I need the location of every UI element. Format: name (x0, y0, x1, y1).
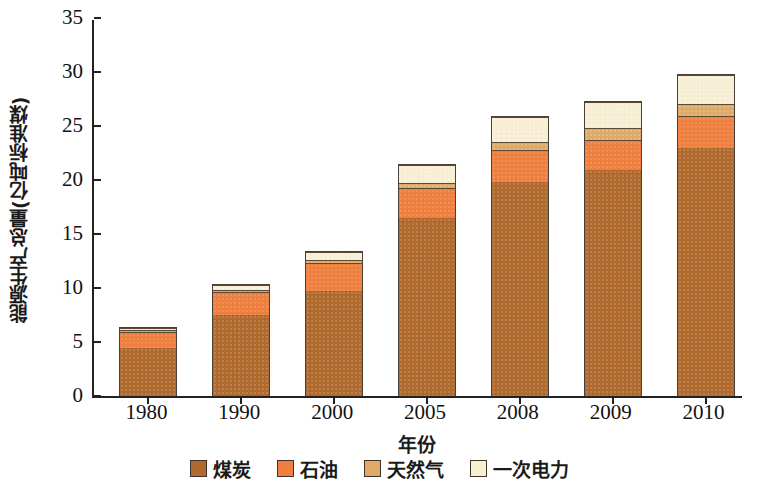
bar-2010 (677, 74, 735, 396)
y-axis-tick-label: 30 (62, 61, 94, 82)
bar-2005 (398, 164, 456, 396)
bar-segment-oil (306, 263, 362, 291)
bar-2008 (491, 116, 549, 396)
bar-segment-oil (213, 292, 269, 314)
x-axis-title: 年份 (92, 430, 742, 457)
y-axis-tick-label: 20 (62, 169, 94, 190)
legend-item-coal: 煤炭 (190, 455, 251, 482)
bar-1990 (212, 284, 270, 396)
y-axis-title: 能源生产总量(亿吨标准煤) (2, 60, 36, 360)
legend-label: 煤炭 (213, 455, 251, 482)
legend-label: 一次电力 (493, 455, 569, 482)
bar-2009 (584, 101, 642, 396)
legend-swatch-icon-gas (364, 460, 381, 477)
y-axis-tick-label: 25 (62, 115, 94, 136)
bar-segment-coal (492, 182, 548, 396)
bar-segment-oil (492, 150, 548, 182)
legend-swatch-icon-oil (277, 460, 294, 477)
bar-segment-coal (399, 218, 455, 397)
bar-segment-coal (120, 348, 176, 396)
legend-label: 天然气 (387, 455, 444, 482)
stacked-bar-chart: 能源生产总量(亿吨标准煤) 05101520253035 19801990200… (0, 0, 758, 482)
bar-segment-oil (585, 140, 641, 170)
bar-segment-coal (213, 315, 269, 396)
bar-segment-gas (585, 128, 641, 140)
bar-segment-power (678, 75, 734, 104)
bar-2000 (305, 251, 363, 396)
bar-segment-oil (399, 188, 455, 217)
legend-item-power: 一次电力 (470, 455, 569, 482)
bar-segment-power (585, 102, 641, 128)
bar-segment-gas (492, 142, 548, 150)
y-axis-tick-label: 15 (62, 223, 94, 244)
y-axis-tick-mark (94, 17, 101, 19)
legend-swatch-icon-coal (190, 460, 207, 477)
x-axis-tick-label-2008: 2008 (497, 400, 539, 425)
bar-1980 (119, 327, 177, 396)
bar-segment-coal (678, 148, 734, 396)
bar-segment-power (399, 165, 455, 183)
bar-segment-coal (585, 170, 641, 396)
bar-segment-power (492, 117, 548, 142)
x-axis-tick-label-2005: 2005 (404, 400, 446, 425)
x-axis-tick-label-1980: 1980 (125, 400, 167, 425)
x-axis-tick-label-2009: 2009 (590, 400, 632, 425)
legend-item-gas: 天然气 (364, 455, 444, 482)
y-axis-tick-label: 5 (73, 331, 95, 352)
bar-segment-power (306, 252, 362, 260)
bar-segment-oil (678, 116, 734, 148)
x-axis-tick-label-1990: 1990 (218, 400, 260, 425)
bar-segment-gas (678, 104, 734, 116)
x-axis-tick-labels: 1980199020002005200820092010 (92, 400, 742, 430)
y-axis-tick-label: 0 (73, 385, 95, 406)
bar-segment-coal (306, 291, 362, 396)
legend-item-oil: 石油 (277, 455, 338, 482)
legend-label: 石油 (300, 455, 338, 482)
legend-swatch-icon-power (470, 460, 487, 477)
y-axis-tick-label: 10 (62, 277, 94, 298)
bar-segment-oil (120, 332, 176, 348)
x-axis-tick-label-2010: 2010 (683, 400, 725, 425)
x-axis-tick-label-2000: 2000 (311, 400, 353, 425)
y-axis-tick-label: 35 (62, 7, 94, 28)
chart-legend: 煤炭石油天然气一次电力 (0, 455, 758, 482)
plot-area: 05101520253035 (92, 20, 742, 398)
bars-layer (94, 20, 742, 396)
